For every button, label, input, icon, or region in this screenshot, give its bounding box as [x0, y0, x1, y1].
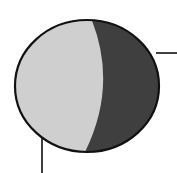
moon-phase-diagram	[0, 0, 177, 173]
